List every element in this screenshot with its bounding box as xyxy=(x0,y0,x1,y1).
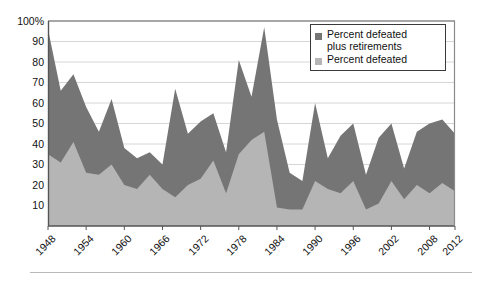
legend-item-defeated-plus-retirements: Percent defeated plus retirements xyxy=(315,29,440,52)
chart-legend: Percent defeated plus retirements Percen… xyxy=(310,24,446,71)
bottom-divider xyxy=(30,272,472,273)
legend-item-defeated: Percent defeated xyxy=(315,54,440,66)
legend-swatch-defeated-plus-retirements xyxy=(315,33,322,40)
legend-label-defeated: Percent defeated xyxy=(327,54,407,66)
chart-container: 100% 90 80 70 60 50 40 30 20 10 xyxy=(0,0,491,285)
legend-swatch-defeated xyxy=(315,58,322,65)
legend-label-defeated-plus-retirements: Percent defeated plus retirements xyxy=(327,29,407,52)
